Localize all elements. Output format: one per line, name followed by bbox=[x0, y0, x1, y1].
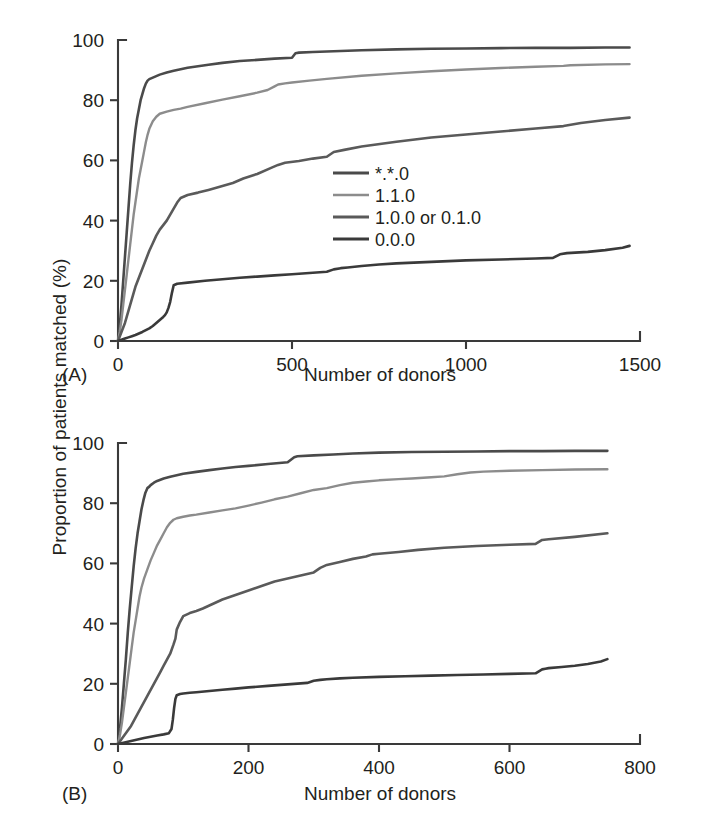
panel-b-tag: (B) bbox=[62, 783, 87, 805]
curve-1-0-0-or-0-1-0 bbox=[118, 118, 630, 341]
curve-1-0-0-or-0-1-0 bbox=[118, 533, 607, 744]
panel-a-x-axis-title: Number of donors bbox=[230, 364, 530, 386]
panel-a: 020406080100050010001500*.*.01.1.01.0.0 … bbox=[0, 0, 706, 400]
x-tick-label: 200 bbox=[233, 757, 265, 778]
curve--0 bbox=[118, 451, 607, 744]
legend-label-2: 1.1.0 bbox=[375, 186, 415, 206]
y-tick-label: 0 bbox=[93, 331, 104, 352]
y-tick-label: 40 bbox=[83, 614, 104, 635]
curve-1-1-0 bbox=[118, 64, 630, 341]
panel-a-plot: 020406080100050010001500*.*.01.1.01.0.0 … bbox=[0, 0, 706, 400]
legend-label-4: 0.0.0 bbox=[375, 230, 415, 250]
y-tick-label: 0 bbox=[93, 734, 104, 755]
curve-0-0-0 bbox=[118, 659, 607, 744]
legend-label-1: *.*.0 bbox=[375, 164, 409, 184]
y-tick-label: 100 bbox=[72, 30, 104, 51]
figure-container: Proportion of patients matched (%) 02040… bbox=[0, 0, 706, 835]
y-tick-label: 20 bbox=[83, 271, 104, 292]
x-tick-label: 400 bbox=[363, 757, 395, 778]
panel-b-x-axis-title: Number of donors bbox=[230, 783, 530, 805]
y-tick-label: 80 bbox=[83, 90, 104, 111]
curve-1-1-0 bbox=[118, 469, 607, 744]
curve-0-0-0 bbox=[118, 246, 630, 341]
legend-label-3: 1.0.0 or 0.1.0 bbox=[375, 208, 481, 228]
panel-a-tag: (A) bbox=[62, 364, 87, 386]
panel-b-plot: 0204060801000200400600800 bbox=[0, 398, 706, 835]
x-tick-label: 0 bbox=[113, 757, 124, 778]
y-tick-label: 60 bbox=[83, 553, 104, 574]
y-tick-label: 60 bbox=[83, 150, 104, 171]
x-tick-label: 800 bbox=[624, 757, 656, 778]
axis-frame bbox=[118, 443, 640, 744]
y-tick-label: 80 bbox=[83, 493, 104, 514]
panel-b: 0204060801000200400600800 bbox=[0, 398, 706, 835]
y-tick-label: 40 bbox=[83, 211, 104, 232]
x-tick-label: 1500 bbox=[619, 354, 661, 375]
y-tick-label: 20 bbox=[83, 674, 104, 695]
y-tick-label: 100 bbox=[72, 433, 104, 454]
x-tick-label: 600 bbox=[494, 757, 526, 778]
x-tick-label: 0 bbox=[113, 354, 124, 375]
